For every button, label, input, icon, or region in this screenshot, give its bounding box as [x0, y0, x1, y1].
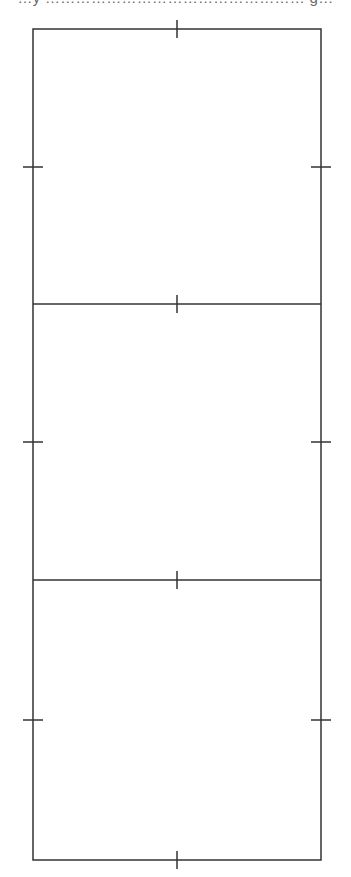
frame-rectangle — [33, 29, 321, 860]
registration-ticks — [23, 20, 331, 869]
panel-dividers — [33, 304, 321, 580]
three-panel-frame-diagram — [0, 0, 351, 877]
outer-frame — [33, 29, 321, 860]
